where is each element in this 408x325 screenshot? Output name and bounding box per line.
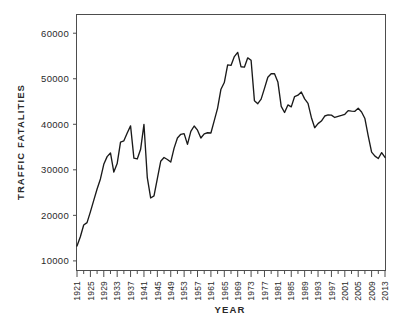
x-tick-label: 1937 — [126, 281, 136, 301]
y-tick-label: 50000 — [41, 73, 69, 84]
x-tick-label: 1953 — [179, 281, 189, 301]
y-tick-label: 30000 — [41, 164, 69, 175]
x-tick-label: 1965 — [220, 281, 230, 301]
x-tick-label: 1921 — [72, 281, 82, 301]
x-tick-label: 1981 — [273, 281, 283, 301]
y-tick-label: 60000 — [41, 28, 69, 39]
chart-background — [0, 0, 408, 325]
chart-figure: 100002000030000400005000060000 192119251… — [0, 0, 408, 325]
x-tick-label: 1985 — [286, 281, 296, 301]
x-tick-label: 1949 — [166, 281, 176, 301]
traffic-fatalities-line-chart: 100002000030000400005000060000 192119251… — [0, 0, 408, 325]
x-tick-label: 2013 — [380, 281, 390, 301]
x-axis-title: YEAR — [215, 304, 246, 315]
x-tick-label: 1933 — [112, 281, 122, 301]
x-tick-label: 1925 — [86, 281, 96, 301]
x-tick-label: 2001 — [340, 281, 350, 301]
y-tick-label: 10000 — [41, 255, 69, 266]
x-tick-label: 2005 — [353, 281, 363, 301]
x-tick-label: 1945 — [153, 281, 163, 301]
x-tick-label: 1973 — [246, 281, 256, 301]
x-tick-label: 1929 — [99, 281, 109, 301]
x-tick-label: 1997 — [327, 281, 337, 301]
x-tick-label: 1957 — [193, 281, 203, 301]
x-tick-label: 1969 — [233, 281, 243, 301]
x-tick-label: 1977 — [260, 281, 270, 301]
x-tick-label: 1993 — [313, 281, 323, 301]
x-tick-label: 2009 — [367, 281, 377, 301]
x-tick-label: 1989 — [300, 281, 310, 301]
y-tick-label: 20000 — [41, 210, 69, 221]
x-tick-label: 1941 — [139, 281, 149, 301]
y-tick-label: 40000 — [41, 119, 69, 130]
x-tick-label: 1961 — [206, 281, 216, 301]
y-axis-title: TRAFFIC FATALITIES — [15, 84, 26, 200]
